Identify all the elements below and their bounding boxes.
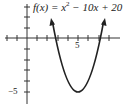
y-tick-label-minus-5: −5 [8, 86, 18, 96]
function-label-lhs: f(x) = x [33, 1, 66, 13]
right-arrowhead-icon [101, 18, 107, 26]
parabola-curve [53, 22, 104, 92]
function-graph: f(x) = x2 − 10x + 20 5 −5 [0, 0, 125, 108]
function-label-rhs: − 10x + 20 [70, 1, 123, 13]
left-arrowhead-icon [50, 18, 56, 26]
function-label: f(x) = x2 − 10x + 20 [33, 0, 122, 13]
plot-area [0, 0, 125, 108]
x-tick-label-5: 5 [75, 40, 80, 50]
